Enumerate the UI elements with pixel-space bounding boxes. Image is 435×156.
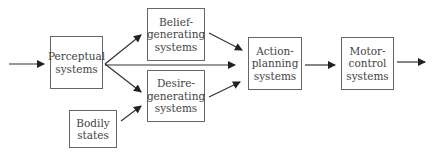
node-label: generating: [147, 90, 205, 103]
node-label: generating: [147, 28, 205, 41]
node-label: systems: [346, 70, 389, 83]
edge-perceptual-desire: [105, 64, 141, 92]
belief-generating-systems-box: Belief-generatingsystems: [147, 8, 205, 61]
bodily-states-box: Bodilystates: [69, 110, 117, 148]
desire-generating-systems-box: Desire-generatingsystems: [147, 70, 205, 122]
node-label: planning: [252, 57, 299, 70]
perceptual-systems-box: Perceptualsystems: [50, 36, 103, 89]
motor-control-systems-box: Motor-controlsystems: [341, 37, 394, 90]
node-label: Bodily: [76, 117, 109, 130]
node-label: systems: [147, 41, 205, 54]
node-label: systems: [252, 70, 299, 83]
edge-bodily-desire: [121, 106, 141, 121]
edge-perceptual-belief: [105, 35, 141, 64]
action-planning-systems-box: Action-planningsystems: [248, 37, 302, 90]
node-label: systems: [147, 102, 205, 115]
node-label: Belief-: [147, 16, 205, 29]
node-label: Action-: [252, 45, 299, 58]
edge-belief-action: [209, 33, 242, 50]
node-label: systems: [48, 63, 105, 76]
node-label: Perceptual: [48, 50, 105, 63]
edge-desire-action: [209, 82, 240, 97]
node-label: states: [76, 129, 109, 142]
node-label: control: [346, 57, 389, 70]
node-label: Desire-: [147, 77, 205, 90]
node-label: Motor-: [346, 45, 389, 58]
